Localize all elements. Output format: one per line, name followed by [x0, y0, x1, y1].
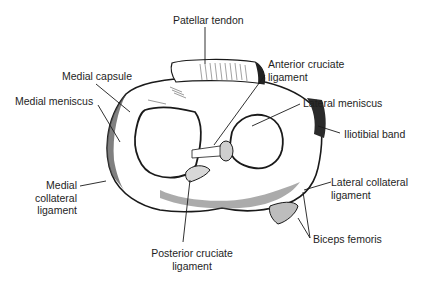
label-lateral-meniscus: Lateral meniscus: [303, 97, 382, 110]
label-lateral-collateral-ligament: Lateral collateral ligament: [331, 176, 408, 201]
patellar-tendon-shape: [171, 59, 264, 84]
label-iliotibial-band: Iliotibial band: [344, 128, 405, 141]
knee-tibial-plateau-diagram: Patellar tendon Anterior cruciate ligame…: [0, 0, 425, 283]
biceps-femoris-shape: [269, 202, 298, 224]
label-medial-collateral-ligament: Medial collateral ligament: [30, 179, 77, 217]
label-medial-meniscus: Medial meniscus: [15, 95, 93, 108]
label-patellar-tendon: Patellar tendon: [173, 14, 244, 27]
label-posterior-cruciate-ligament: Posterior cruciate ligament: [142, 247, 242, 272]
anterior-cruciate-ligament-shape: [219, 141, 233, 161]
lateral-meniscus-opening: [230, 115, 283, 169]
label-biceps-femoris: Biceps femoris: [313, 233, 382, 246]
label-medial-capsule: Medial capsule: [62, 70, 132, 83]
label-anterior-cruciate-ligament: Anterior cruciate ligament: [268, 58, 344, 83]
medial-meniscus-opening: [135, 107, 201, 177]
